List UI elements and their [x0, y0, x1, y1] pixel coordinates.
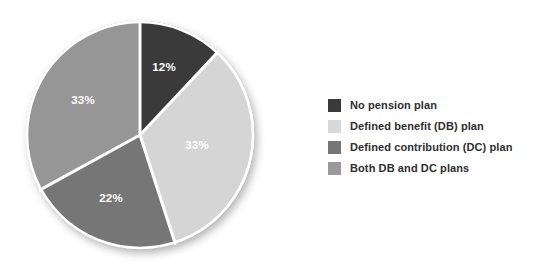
- pie-chart-plot-area: 12% 33% 22% 33%: [0, 0, 290, 271]
- pie-slice-label-both-db-and-dc: 33%: [71, 94, 95, 106]
- legend-item-label: Both DB and DC plans: [350, 162, 469, 175]
- legend-swatch-icon: [328, 162, 341, 175]
- pie-chart-figure: 12% 33% 22% 33% No pension plan Defined …: [0, 0, 548, 271]
- pie-slice-label-defined-benefit: 33%: [185, 139, 209, 151]
- legend-item-label: No pension plan: [350, 99, 437, 112]
- legend-item-label: Defined contribution (DC) plan: [350, 141, 512, 154]
- legend-item-defined-contribution-plan: Defined contribution (DC) plan: [328, 137, 543, 158]
- legend-item-label: Defined benefit (DB) plan: [350, 120, 484, 133]
- legend-swatch-icon: [328, 141, 341, 154]
- pie-chart-svg: 12% 33% 22% 33%: [0, 0, 290, 271]
- legend-item-no-pension-plan: No pension plan: [328, 95, 543, 116]
- legend-swatch-icon: [328, 99, 341, 112]
- pie-slice-label-no-pension-plan: 12%: [152, 61, 176, 73]
- legend-swatch-icon: [328, 120, 341, 133]
- legend-item-defined-benefit-plan: Defined benefit (DB) plan: [328, 116, 543, 137]
- pie-slice-label-defined-contribution: 22%: [99, 192, 123, 204]
- legend-item-both-db-and-dc-plans: Both DB and DC plans: [328, 158, 543, 179]
- chart-legend: No pension plan Defined benefit (DB) pla…: [328, 95, 543, 179]
